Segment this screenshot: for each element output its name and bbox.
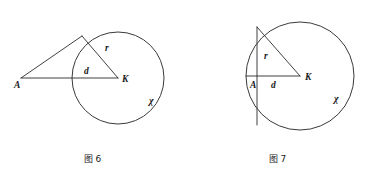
- figure-6-label-chi: χ: [147, 95, 154, 106]
- figure-7-label-K: K: [304, 72, 312, 82]
- figure-7-label-chi: χ: [332, 93, 339, 104]
- figure-7-caption: 图 7: [185, 152, 370, 165]
- figure-7-group: A K d r χ: [246, 22, 354, 130]
- figure-6-label-A: A: [13, 80, 20, 90]
- figure-6-group: A K d r χ: [13, 32, 164, 124]
- figure-7-label-A: A: [249, 80, 256, 90]
- figure-6-label-d: d: [84, 66, 89, 76]
- figure-sheet: A K d r χ A K d r χ 图 6 图 7: [0, 0, 370, 179]
- figure-7-label-d: d: [271, 80, 276, 90]
- figure-7-label-r: r: [264, 51, 268, 61]
- figure-6-caption: 图 6: [0, 152, 185, 165]
- figure-6-label-r: r: [105, 43, 109, 53]
- figure-6-label-K: K: [121, 74, 129, 84]
